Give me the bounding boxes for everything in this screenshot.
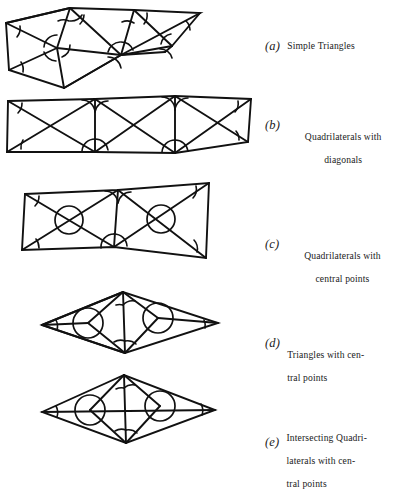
central-point-d1	[73, 308, 103, 338]
panel-e-angle-arcs	[56, 385, 203, 433]
caption-text-a: Simple Triangles	[287, 40, 395, 52]
panel-d-central-spokes	[42, 292, 218, 353]
caption-b: (b) Quadrilaterals with diagonals	[265, 119, 399, 165]
caption-line: tral points	[287, 372, 327, 383]
caption-line: central points	[315, 273, 369, 284]
caption-letter-a: (a)	[265, 40, 280, 53]
caption-text-e: Intersecting Quadri- laterals with cen- …	[286, 420, 398, 490]
central-point-e2	[145, 391, 175, 421]
caption-letter-b: (b)	[265, 119, 280, 132]
panel-c-angle-arcs	[35, 186, 197, 252]
central-point-c2	[147, 205, 175, 233]
caption-text-b: Quadrilaterals with diagonals	[287, 119, 399, 165]
caption-line: diagonals	[324, 154, 362, 165]
caption-letter-e: (e)	[265, 436, 279, 449]
panel-c-central-points	[55, 205, 175, 234]
caption-line: Intersecting Quadri-	[286, 432, 367, 443]
panel-d-central-points	[73, 303, 173, 338]
caption-a: (a) Simple Triangles	[265, 40, 395, 53]
panel-b-geometry	[7, 96, 251, 153]
central-point-c1	[55, 206, 83, 234]
panel-a-angle-arcs	[17, 13, 190, 72]
panel-d-geometry	[42, 292, 218, 353]
caption-letter-d: (d)	[265, 337, 280, 350]
panel-a-geometry	[6, 8, 200, 88]
caption-e: (e) Intersecting Quadri- laterals with c…	[265, 420, 398, 490]
caption-line: Quadrilaterals with	[304, 250, 381, 261]
caption-line: Triangles with cen-	[287, 349, 364, 360]
panel-e-geometry	[42, 375, 215, 443]
caption-line: laterals with cen-	[286, 455, 355, 466]
panel-d-angle-arcs	[56, 301, 205, 344]
caption-text-d: Triangles with cen- tral points	[287, 337, 399, 383]
caption-letter-c: (c)	[265, 238, 279, 251]
panel-b-angle-arcs	[18, 97, 239, 152]
caption-c: (c) Quadrilaterals with central points	[265, 238, 398, 284]
panel-e-central-points	[75, 391, 175, 425]
caption-text-c: Quadrilaterals with central points	[286, 238, 398, 284]
panel-c-geometry	[22, 183, 209, 258]
panel-e-central-spokes	[90, 375, 160, 443]
caption-line: Quadrilaterals with	[305, 131, 382, 142]
caption-line: tral points	[286, 478, 326, 489]
central-point-d2	[143, 303, 173, 333]
central-point-e1	[75, 395, 105, 425]
caption-d: (d) Triangles with cen- tral points	[265, 337, 399, 383]
